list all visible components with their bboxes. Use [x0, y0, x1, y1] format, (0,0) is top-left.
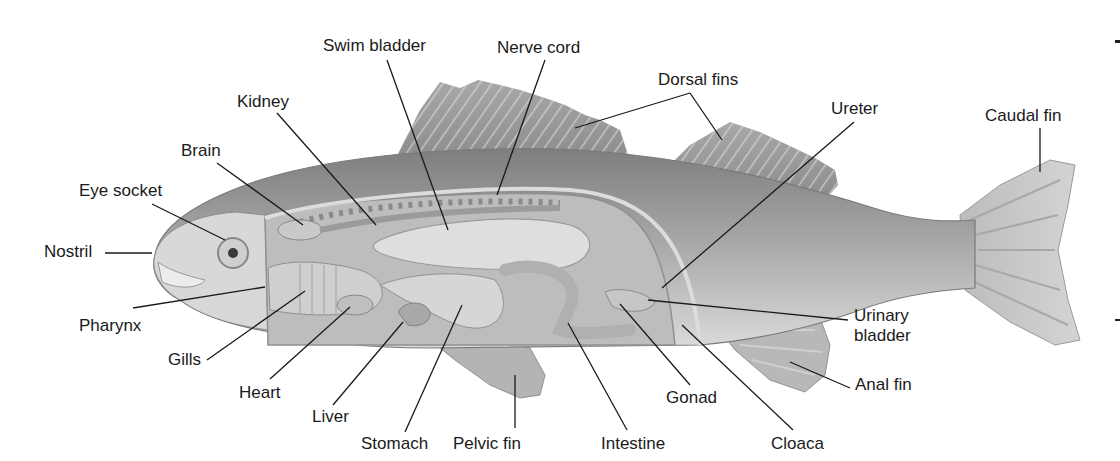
label-pharynx: Pharynx [79, 316, 141, 336]
label-liver: Liver [312, 407, 349, 427]
label-brain: Brain [181, 141, 221, 161]
fish-illustration [0, 0, 1120, 461]
leader-dorsal-fins-2 [690, 93, 722, 140]
edge-mark-top [1115, 40, 1120, 43]
edge-mark-bottom [1115, 319, 1120, 321]
label-nerve-cord: Nerve cord [497, 38, 580, 58]
label-cloaca: Cloaca [771, 434, 824, 454]
label-intestine: Intestine [601, 434, 665, 454]
label-urinary-bladder: Urinary bladder [854, 306, 934, 346]
label-dorsal-fins: Dorsal fins [658, 70, 738, 90]
leader-dorsal-fins-1 [575, 93, 690, 128]
dorsal-fin-front [395, 80, 628, 160]
caudal-fin [960, 160, 1080, 345]
label-pelvic-fin: Pelvic fin [453, 434, 521, 454]
label-gills: Gills [168, 350, 201, 370]
label-stomach: Stomach [361, 434, 428, 454]
label-ureter: Ureter [831, 99, 878, 119]
label-swim-bladder: Swim bladder [323, 36, 426, 56]
label-eye-socket: Eye socket [79, 181, 162, 201]
fish-anatomy-diagram: Swim bladder Nerve cord Dorsal fins Kidn… [0, 0, 1120, 461]
label-gonad: Gonad [666, 388, 717, 408]
label-anal-fin: Anal fin [855, 375, 912, 395]
label-caudal-fin: Caudal fin [985, 106, 1062, 126]
label-heart: Heart [239, 383, 281, 403]
label-kidney: Kidney [237, 92, 289, 112]
heart-organ [337, 295, 373, 315]
label-nostril: Nostril [44, 242, 92, 262]
